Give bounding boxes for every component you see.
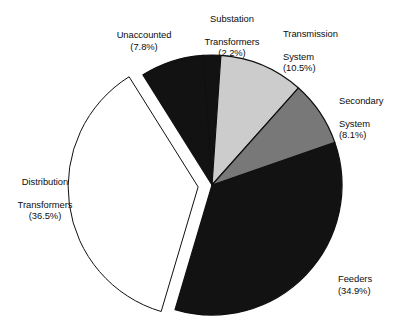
pie-slices-group bbox=[68, 55, 342, 315]
pie-label-substation-transformers-line2: Transformers bbox=[205, 36, 260, 47]
pie-label-transmission-system-line1: Transmission bbox=[283, 28, 338, 39]
pie-label-transmission-system-percent: (10.5%) bbox=[283, 62, 375, 73]
pie-label-secondary-system-line1: Secondary bbox=[339, 95, 383, 106]
pie-label-distribution-transformers: Distribution Transformers (36.5%) bbox=[2, 165, 88, 233]
pie-label-secondary-system: Secondary System (8.1%) bbox=[339, 84, 403, 152]
pie-label-transmission-system-line2: System bbox=[283, 51, 314, 62]
pie-label-unaccounted-text: Unaccounted bbox=[117, 29, 172, 40]
pie-label-unaccounted: Unaccounted (7.8%) bbox=[102, 18, 186, 63]
pie-label-feeders-percent: (34.9%) bbox=[338, 285, 402, 296]
pie-label-substation-transformers-line1: Substation bbox=[210, 13, 254, 24]
pie-label-substation-transformers-percent: (2.2%) bbox=[185, 47, 279, 58]
pie-label-transmission-system: Transmission System (10.5%) bbox=[283, 17, 375, 85]
pie-chart-figure: Unaccounted (7.8%) Substation Transforme… bbox=[0, 0, 403, 327]
pie-label-distribution-transformers-percent: (36.5%) bbox=[2, 210, 88, 221]
pie-label-distribution-transformers-line2: Transformers bbox=[18, 199, 73, 210]
pie-label-secondary-system-percent: (8.1%) bbox=[339, 129, 403, 140]
pie-label-feeders-text: Feeders bbox=[338, 273, 372, 284]
pie-label-distribution-transformers-line1: Distribution bbox=[22, 176, 68, 187]
pie-label-unaccounted-percent: (7.8%) bbox=[102, 41, 186, 52]
pie-label-feeders: Feeders (34.9%) bbox=[338, 262, 402, 307]
pie-label-substation-transformers: Substation Transformers (2.2%) bbox=[185, 2, 279, 70]
pie-label-secondary-system-line2: System bbox=[339, 118, 370, 129]
